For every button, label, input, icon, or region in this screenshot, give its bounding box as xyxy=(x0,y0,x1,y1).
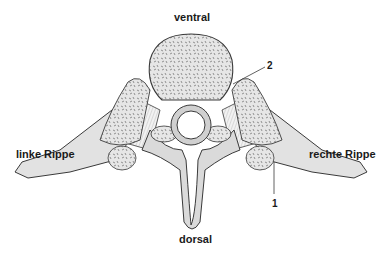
label-dorsal: dorsal xyxy=(179,233,212,245)
vertebral-body xyxy=(149,34,233,100)
label-ventral: ventral xyxy=(174,11,210,23)
vertebra-illustration xyxy=(0,0,382,254)
callout-number-1: 1 xyxy=(272,198,278,209)
label-left-rib: linke Rippe xyxy=(16,148,75,160)
label-right-rib: rechte Rippe xyxy=(309,148,376,160)
callout-number-2: 2 xyxy=(267,60,273,71)
